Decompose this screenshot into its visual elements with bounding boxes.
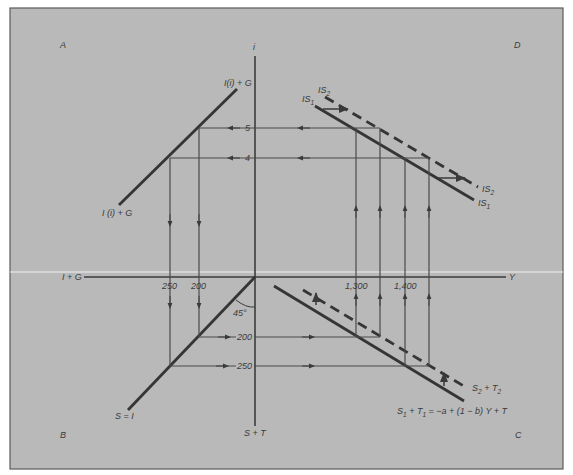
is-curve-diagram: A D B C i S + T I + G Y I(i) + G I (i) +… bbox=[0, 0, 573, 475]
quadrant-label-a: A bbox=[59, 40, 66, 50]
quadrant-label-c: C bbox=[515, 430, 522, 440]
tick-ig-250: 250 bbox=[161, 281, 177, 291]
tick-st-250: 250 bbox=[236, 361, 252, 371]
savings-identity-label: S = I bbox=[115, 411, 134, 421]
quadrant-label-b: B bbox=[60, 430, 66, 440]
tick-y-1300: 1,300 bbox=[345, 281, 368, 291]
tick-ig-200: 200 bbox=[190, 281, 206, 291]
tick-i-4: 4 bbox=[245, 153, 250, 163]
axis-label-y: Y bbox=[509, 272, 516, 282]
investment-label-top: I(i) + G bbox=[224, 78, 252, 88]
axis-label-i-plus-g: I + G bbox=[62, 272, 82, 282]
tick-y-1400: 1,400 bbox=[394, 281, 417, 291]
angle-label: 45° bbox=[233, 308, 247, 318]
axis-label-s-plus-t: S + T bbox=[244, 428, 267, 438]
diagram-frame bbox=[10, 8, 563, 469]
investment-label-bottom: I (i) + G bbox=[102, 208, 132, 218]
quadrant-label-d: D bbox=[514, 40, 521, 50]
tick-st-200: 200 bbox=[236, 332, 252, 342]
